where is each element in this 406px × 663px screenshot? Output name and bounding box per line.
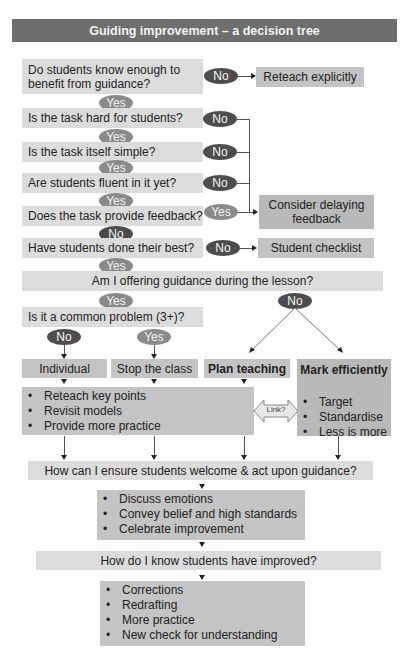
diagram-title: Guiding improvement – a decision tree — [12, 19, 397, 42]
mark-efficiently-heading: Mark efficiently — [297, 363, 391, 377]
no-pill: No — [203, 144, 237, 160]
question-common-problem: Is it a common problem (3+)? — [22, 307, 203, 327]
list-item: Convey belief and high standards — [97, 507, 305, 522]
question-know-improved: How do I know students have improved? — [36, 551, 381, 570]
arrow-down-icon — [61, 379, 67, 384]
welcome-list: Discuss emotions Convey belief and high … — [97, 492, 305, 537]
arrow-down-icon — [199, 484, 205, 489]
yes-pill: Yes — [137, 329, 171, 345]
connector — [244, 436, 245, 456]
connector — [64, 436, 65, 456]
reteach-list: Reteach key points Revisit models Provid… — [22, 389, 254, 434]
list-item: Standardise — [297, 410, 391, 425]
list-item: More practice — [100, 613, 305, 628]
connector — [338, 436, 339, 456]
list-item: Revisit models — [22, 404, 254, 419]
arrow-down-icon — [151, 455, 157, 460]
action-consider-delaying-feedback: Consider delaying feedback — [259, 195, 374, 229]
action-reteach-explicitly: Reteach explicitly — [256, 67, 364, 87]
question-task-simple: Is the task itself simple? — [22, 142, 203, 162]
action-individual: Individual — [22, 359, 107, 378]
connector — [154, 345, 155, 354]
mark-efficiently-list: Target Standardise Less is more — [297, 395, 391, 440]
list-item: Corrections — [100, 583, 305, 598]
no-pill: No — [206, 240, 240, 256]
question-students-fluent: Are students fluent in it yet? — [22, 173, 203, 193]
improvement-evidence-box: Corrections Redrafting More practice New… — [100, 581, 305, 646]
arrow-right-icon — [253, 209, 258, 215]
connector — [238, 212, 254, 213]
arrow-down-icon — [151, 379, 157, 384]
list-item: Reteach key points — [22, 389, 254, 404]
list-item: Less is more — [297, 425, 391, 440]
question-task-feedback: Does the task provide feedback? — [22, 206, 203, 226]
branch-lines — [240, 300, 350, 360]
improved-list: Corrections Redrafting More practice New… — [100, 583, 305, 643]
arrow-down-icon — [199, 575, 205, 580]
no-pill: No — [203, 175, 237, 191]
action-student-checklist: Student checklist — [258, 238, 374, 258]
no-pill: No — [204, 68, 238, 84]
question-done-best: Have students done their best? — [22, 238, 203, 258]
list-item: Discuss emotions — [97, 492, 305, 507]
list-item: Target — [297, 395, 391, 410]
arrow-down-icon — [199, 542, 205, 547]
list-item: New check for understanding — [100, 628, 305, 643]
arrow-down-icon — [241, 379, 247, 384]
list-item: Redrafting — [100, 598, 305, 613]
connector — [64, 345, 65, 354]
no-pill: No — [47, 329, 81, 345]
arrow-down-icon — [61, 455, 67, 460]
list-item: Provide more practice — [22, 419, 254, 434]
connector — [154, 436, 155, 456]
question-guidance-during-lesson: Am I offering guidance during the lesson… — [22, 271, 383, 291]
question-task-hard: Is the task hard for students? — [22, 108, 203, 128]
reteach-options-box: Reteach key points Revisit models Provid… — [22, 387, 254, 435]
connector — [249, 119, 250, 213]
arrow-right-icon — [252, 245, 257, 251]
action-plan-teaching: Plan teaching — [204, 359, 290, 378]
arrow-down-icon — [335, 455, 341, 460]
action-stop-the-class: Stop the class — [111, 359, 198, 378]
link-label: Link? — [262, 405, 290, 414]
question-welcome-guidance: How can I ensure students welcome & act … — [28, 461, 373, 480]
no-pill: No — [203, 111, 237, 127]
question-know-enough: Do students know enough to benefit from … — [22, 59, 203, 94]
welcome-actions-box: Discuss emotions Convey belief and high … — [97, 490, 305, 540]
action-mark-efficiently: Mark efficiently Target Standardise Less… — [297, 359, 391, 436]
arrow-down-icon — [241, 455, 247, 460]
yes-pill: Yes — [204, 204, 238, 220]
list-item: Celebrate improvement — [97, 522, 305, 537]
